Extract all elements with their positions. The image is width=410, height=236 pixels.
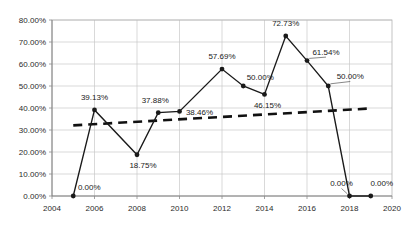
- data-label-leader: [330, 82, 350, 84]
- y-axis-tick-label: 80.00%: [19, 16, 46, 25]
- data-point-marker[interactable]: [368, 194, 373, 199]
- y-axis-tick-label: 30.00%: [19, 126, 46, 135]
- x-axis-tick-label: 2020: [383, 204, 401, 213]
- x-axis-tick-label: 2018: [341, 204, 359, 213]
- data-point-marker[interactable]: [241, 84, 246, 89]
- data-point-label: 50.00%: [337, 72, 364, 81]
- data-point-marker[interactable]: [283, 34, 288, 39]
- data-point-label: 50.00%: [247, 73, 274, 82]
- data-point-label: 37.88%: [142, 96, 169, 105]
- chart-container: 0.00%10.00%20.00%30.00%40.00%50.00%60.00…: [0, 0, 410, 236]
- y-axis-tick-label: 10.00%: [19, 170, 46, 179]
- y-axis-tick-label: 40.00%: [19, 104, 46, 113]
- data-point-marker[interactable]: [305, 58, 310, 63]
- data-point-label: 18.75%: [129, 161, 156, 170]
- data-point-label: 72.73%: [272, 19, 299, 28]
- data-point-marker[interactable]: [92, 108, 97, 113]
- data-point-label: 57.69%: [208, 52, 235, 61]
- y-axis-tick-label: 50.00%: [19, 82, 46, 91]
- x-axis-tick-label: 2006: [86, 204, 104, 213]
- data-point-marker[interactable]: [135, 152, 140, 157]
- data-point-marker[interactable]: [326, 84, 331, 89]
- data-point-label: 0.00%: [78, 183, 101, 192]
- data-point-label: 38.46%: [186, 108, 213, 117]
- data-label-leader: [309, 57, 326, 58]
- y-axis-tick-label: 70.00%: [19, 38, 46, 47]
- data-point-marker[interactable]: [220, 67, 225, 72]
- data-point-marker[interactable]: [156, 110, 161, 115]
- data-point-label: 39.13%: [81, 93, 108, 102]
- x-axis-tick-label: 2004: [43, 204, 61, 213]
- y-axis-tick-label: 20.00%: [19, 148, 46, 157]
- data-point-label: 0.00%: [330, 179, 353, 188]
- x-axis-tick-label: 2008: [128, 204, 146, 213]
- y-axis-tick-label: 60.00%: [19, 60, 46, 69]
- line-chart: 0.00%10.00%20.00%30.00%40.00%50.00%60.00…: [0, 0, 410, 236]
- data-point-marker[interactable]: [177, 109, 182, 114]
- data-point-label: 0.00%: [370, 179, 393, 188]
- data-point-label: 61.54%: [312, 48, 339, 57]
- data-label-leader: [342, 189, 348, 194]
- data-point-marker[interactable]: [347, 194, 352, 199]
- x-axis-tick-label: 2010: [171, 204, 189, 213]
- data-point-label: 46.15%: [254, 101, 281, 110]
- data-point-marker[interactable]: [71, 194, 76, 199]
- x-axis-tick-label: 2014: [256, 204, 274, 213]
- data-point-marker[interactable]: [262, 92, 267, 97]
- x-axis-tick-label: 2016: [298, 204, 316, 213]
- y-axis-tick-label: 0.00%: [23, 192, 46, 201]
- x-axis-tick-label: 2012: [213, 204, 231, 213]
